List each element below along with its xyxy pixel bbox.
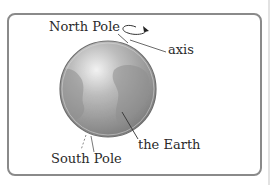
axis-label: axis: [168, 43, 194, 56]
earth-axis-diagram: [0, 0, 271, 185]
north-pole-label: North Pole: [49, 20, 120, 33]
earth-label: the Earth: [138, 138, 200, 151]
north-axis-line: [118, 34, 128, 43]
axis-dashed-extension: [81, 135, 86, 150]
rotation-arrow-icon: [123, 25, 149, 34]
earth-globe: [60, 41, 156, 137]
south-pole-label: South Pole: [51, 152, 122, 165]
south-pole-leader-line: [91, 136, 94, 152]
